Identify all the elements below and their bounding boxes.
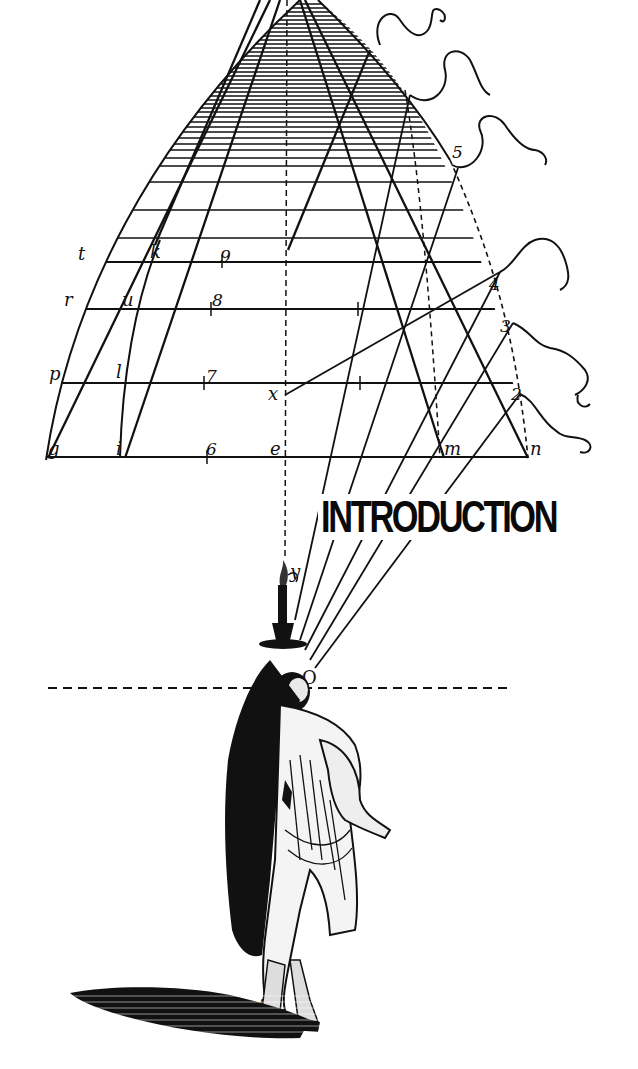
svg-text:p: p bbox=[49, 363, 61, 384]
svg-text:2: 2 bbox=[510, 384, 522, 404]
smoke-curls bbox=[377, 9, 590, 453]
figure-man bbox=[225, 660, 390, 1032]
svg-text:r: r bbox=[64, 289, 74, 310]
svg-text:x: x bbox=[268, 383, 278, 404]
svg-text:6: 6 bbox=[206, 439, 217, 459]
svg-text:n: n bbox=[530, 438, 542, 459]
svg-text:4: 4 bbox=[488, 274, 500, 294]
svg-text:i: i bbox=[116, 438, 122, 459]
svg-text:m: m bbox=[444, 438, 461, 459]
svg-text:e: e bbox=[270, 438, 281, 459]
svg-text:3: 3 bbox=[500, 316, 511, 336]
svg-text:9: 9 bbox=[220, 246, 231, 266]
cone-outline bbox=[46, 0, 528, 460]
svg-text:g: g bbox=[48, 438, 60, 459]
svg-text:u: u bbox=[122, 289, 134, 310]
svg-text:5: 5 bbox=[452, 142, 463, 162]
page-title: INTRODUCTION bbox=[318, 494, 559, 540]
svg-text:t: t bbox=[78, 243, 86, 264]
svg-text:8: 8 bbox=[212, 290, 223, 310]
svg-text:l: l bbox=[116, 361, 122, 382]
svg-text:7: 7 bbox=[206, 366, 217, 386]
svg-text:y: y bbox=[289, 561, 301, 582]
visual-rays bbox=[285, 95, 520, 668]
sky-hatching bbox=[0, 4, 638, 457]
svg-text:k: k bbox=[150, 241, 161, 262]
